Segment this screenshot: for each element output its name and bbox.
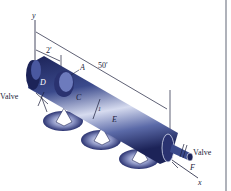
right-valve-label: Valve — [193, 148, 212, 157]
x-axis-label: x — [197, 178, 202, 187]
dimension-2ft-label: 2′ — [46, 46, 52, 55]
point-label-C: C — [76, 93, 82, 102]
y-axis-label: y — [31, 11, 36, 20]
point-label-A: A — [79, 63, 85, 72]
point-label-D: D — [39, 78, 46, 87]
pipe-diagram: y 50′ 2′ Valve Valve x — [0, 0, 231, 191]
left-valve-label: Valve — [0, 92, 19, 101]
dimension-50ft-label: 50′ — [98, 61, 108, 70]
point-label-inner: 1 — [98, 106, 101, 112]
point-label-E: E — [111, 115, 117, 124]
point-label-F: F — [189, 163, 195, 172]
